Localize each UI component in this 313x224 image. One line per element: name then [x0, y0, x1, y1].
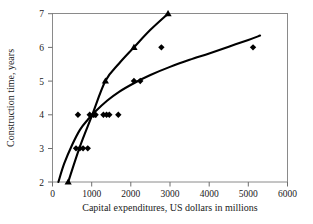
x-axis-title: Capital expenditures, US dollars in mill…	[82, 202, 258, 213]
y-tick-label: 6	[39, 43, 44, 53]
chart-container: 7 6 5 4 3 2 0 1000 2000 3000 4000 5000 6…	[0, 0, 313, 224]
y-axis-title: Construction time, years	[5, 49, 16, 147]
y-tick-label: 3	[39, 144, 44, 154]
x-tick-label: 4000	[200, 189, 219, 199]
upper-fit-curve	[68, 14, 168, 182]
y-tick-label: 4	[39, 110, 44, 120]
data-point-diamond	[75, 111, 81, 117]
data-point-diamond	[158, 44, 164, 50]
x-axis-ticks	[53, 182, 288, 187]
fit-curves-layer	[58, 14, 260, 182]
x-axis-tick-labels: 0 1000 2000 3000 4000 5000 6000	[50, 189, 297, 199]
y-axis-ticks	[48, 14, 53, 182]
x-tick-label: 2000	[121, 189, 140, 199]
y-axis-tick-labels: 7 6 5 4 3 2	[39, 9, 44, 187]
x-tick-label: 3000	[161, 189, 180, 199]
x-tick-label: 1000	[82, 189, 101, 199]
data-point-diamond	[115, 111, 121, 117]
lower-fit-curve	[58, 36, 260, 182]
construction-time-scatter-chart: 7 6 5 4 3 2 0 1000 2000 3000 4000 5000 6…	[0, 0, 313, 224]
data-point-diamond	[250, 44, 256, 50]
y-tick-label: 7	[39, 9, 44, 19]
x-tick-label: 0	[50, 189, 55, 199]
y-tick-label: 5	[39, 77, 44, 87]
x-tick-label: 5000	[239, 189, 258, 199]
data-point-diamond	[85, 145, 91, 151]
data-points-layer	[65, 10, 257, 185]
y-tick-label: 2	[39, 178, 44, 188]
x-tick-label: 6000	[278, 189, 297, 199]
